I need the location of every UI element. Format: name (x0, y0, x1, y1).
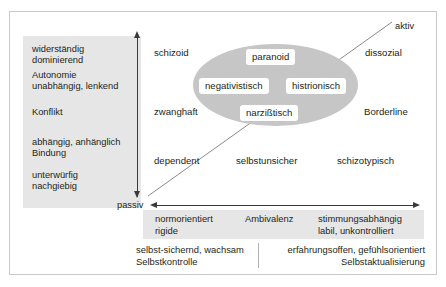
descriptor-line: dominierend (32, 55, 84, 66)
disorder-label-dissozial: dissozial (365, 47, 402, 58)
chip-label-negativistisch: negativistisch (199, 78, 269, 94)
horizontal-axis-line (155, 205, 418, 206)
axis-label-passiv: passiv (117, 200, 143, 211)
descriptor-line: Bindung (32, 148, 120, 159)
descriptor-line: abhängig, anhänglich (32, 137, 120, 148)
descriptor-block-0: widerständig dominierend (32, 44, 84, 67)
band-line: rigide (155, 225, 213, 237)
band-cell-stimmungsabhaengig: stimmungsabhängig labil, unkontrolliert (318, 213, 402, 236)
band-cell-ambivalenz: Ambivalenz (245, 213, 293, 225)
descriptor-line: Konflikt (32, 107, 63, 118)
band-line: selbst-sichernd, wachsam (136, 244, 244, 256)
disorder-label-selbstunsicher: selbstunsicher (236, 155, 297, 166)
band-line: Selbstkontrolle (136, 256, 244, 268)
band-vertical-divider (258, 243, 259, 268)
descriptor-block-2: Konflikt (32, 107, 63, 118)
descriptor-line: unabhängig, lenkend (32, 81, 118, 92)
band-line: normorientiert (155, 213, 213, 225)
axis-label-aktiv: aktiv (395, 21, 414, 32)
left-descriptor-panel: widerständig dominierend Autonomie unabh… (23, 36, 141, 208)
band-line: stimmungsabhängig (318, 213, 402, 225)
vertical-axis-line (137, 37, 138, 197)
disorder-label-schizotypisch: schizotypisch (337, 155, 394, 166)
descriptor-line: widerständig (32, 44, 84, 55)
descriptor-line: unterwürfig (32, 170, 78, 181)
descriptor-block-4: unterwürfig nachgiebig (32, 170, 78, 193)
chip-label-paranoid: paranoid (246, 49, 295, 65)
descriptor-block-1: Autonomie unabhängig, lenkend (32, 70, 118, 93)
descriptor-line: Autonomie (32, 70, 118, 81)
descriptor-block-3: abhängig, anhänglich Bindung (32, 137, 120, 160)
band-cell-normorientiert: normorientiert rigide (155, 213, 213, 236)
disorder-label-schizoid: schizoid (154, 47, 189, 58)
descriptor-line: nachgiebig (32, 181, 78, 192)
disorder-label-dependent: dependent (154, 155, 199, 166)
band-cell-selbstaktualisierung: erfahrungsoffen, gefühlsorientiert Selbs… (265, 244, 425, 267)
band-line: Ambivalenz (245, 213, 293, 225)
axis-arrow-up-icon (134, 31, 140, 38)
axis-arrow-left-icon (150, 202, 157, 208)
band-line: labil, unkontrolliert (318, 225, 402, 237)
axis-arrow-right-icon (413, 202, 420, 208)
chip-label-narzisstisch: narzißtisch (240, 105, 298, 121)
band-line: erfahrungsoffen, gefühlsorientiert (265, 244, 425, 256)
chip-label-histrionisch: histrionisch (286, 78, 346, 94)
band-cell-selbstkontrolle: selbst-sichernd, wachsam Selbstkontrolle (136, 244, 244, 267)
disorder-label-zwanghaft: zwanghaft (154, 106, 198, 117)
disorder-label-borderline: Borderline (364, 106, 408, 117)
band-line: Selbstaktualisierung (265, 256, 425, 268)
diagram-canvas: widerständig dominierend Autonomie unabh… (0, 0, 446, 287)
axis-arrow-down-icon (134, 191, 140, 198)
